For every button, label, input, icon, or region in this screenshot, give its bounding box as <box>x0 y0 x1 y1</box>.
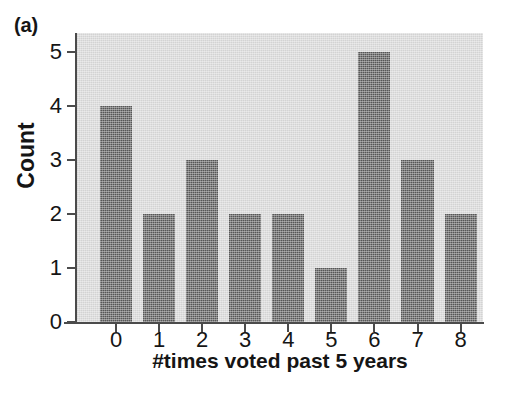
x-tick-label: 3 <box>230 329 260 351</box>
x-tick-label: 5 <box>316 329 346 351</box>
bar <box>229 214 261 322</box>
x-tick-label: 2 <box>187 329 217 351</box>
y-tick-label: 4 <box>36 95 62 117</box>
x-tick-label: 8 <box>446 329 476 351</box>
x-tick-label: 4 <box>273 329 303 351</box>
bar <box>445 214 477 322</box>
x-tick-label: 0 <box>101 329 131 351</box>
x-tick-label: 7 <box>403 329 433 351</box>
y-tick-mark <box>67 321 76 323</box>
y-tick-mark <box>67 267 76 269</box>
y-tick-label: 2 <box>36 203 62 225</box>
y-tick-label: 5 <box>36 41 62 63</box>
y-axis-line <box>75 33 77 323</box>
y-tick-label: 0 <box>36 311 62 333</box>
bar-chart-figure: (a) Count 012345 012345678 #times voted … <box>0 0 514 394</box>
y-tick-mark <box>67 213 76 215</box>
bar <box>358 52 390 322</box>
bar <box>143 214 175 322</box>
bar <box>186 160 218 322</box>
bar <box>401 160 433 322</box>
x-tick-label: 6 <box>359 329 389 351</box>
y-tick-mark <box>67 159 76 161</box>
y-tick-mark <box>67 105 76 107</box>
panel-label: (a) <box>14 14 38 37</box>
bar <box>100 106 132 322</box>
x-tick-label: 1 <box>144 329 174 351</box>
bar <box>272 214 304 322</box>
x-axis-title: #times voted past 5 years <box>76 349 484 373</box>
y-tick-mark <box>67 51 76 53</box>
y-tick-label: 1 <box>36 257 62 279</box>
x-axis-line <box>64 322 484 324</box>
plot-area <box>76 33 483 322</box>
y-tick-label: 3 <box>36 149 62 171</box>
bar <box>315 268 347 322</box>
